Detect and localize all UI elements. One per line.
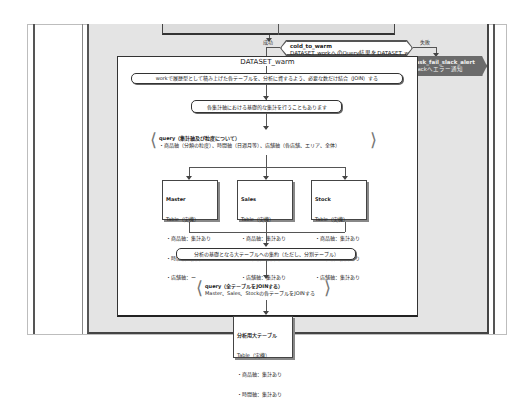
table-row: ・店舗軸：ー [166,274,214,281]
connector [266,222,267,232]
table-kind: Table（実機） [166,216,214,223]
query-body: Master、Sales、Stockの各テーブルをJOINする [205,290,315,297]
slack-alert-task: task_fail_slack_alert slackへエラー通知 [407,56,487,76]
query-bracket-left-icon: ⟨ [150,131,157,149]
lane-divider [493,24,495,334]
join-bar [189,232,345,233]
branch-decision: cold_to_warm DATASET_workへのQuery結果をDATAS… [280,40,413,56]
query-join-note: query（全テーブルをJOINする） Master、Sales、Stockの各… [205,283,315,296]
connector [266,155,267,167]
top-box-divider [278,24,279,35]
step-join-tables: workで履歴型として積み上げた各テーブルを、分析に資するよう、必要な数だけ結合… [131,73,403,84]
table-master: Master Table（実機） ・商品軸：集計あり ・時間軸：集計なし ・店舗… [162,180,218,220]
arrowhead-icon [263,311,269,315]
step-basic-aggregation: 各集計軸における基礎的な集計を行うこともあります [191,100,342,113]
failure-label: 失敗 [420,38,430,45]
lane-divider [82,24,83,334]
table-kind: Table（実機） [237,352,289,359]
table-row: ・店舗軸：集計あり [315,274,363,281]
table-name: Stock [315,196,363,203]
connector [413,47,436,48]
connector [345,222,346,232]
step-consolidate: 分析の基礎となる大テーブルへの集約（ただし、分割テーブル） [176,248,356,260]
table-row: ・商品軸：集計あり [237,371,289,378]
query-bracket-left-icon: ⟨ [196,279,203,297]
query-title: query（集計軸及び粒度について） [159,135,240,141]
alert-description: slackへエラー通知 [413,66,481,73]
arrowhead-icon [263,275,269,279]
arrowhead-icon [263,126,269,130]
table-kind: Table（実機） [241,216,289,223]
table-row: ・商品軸：集計あり [241,235,289,242]
query-body: ・商品軸（分類の粒度）、時間軸（日週月等）、店舗軸（各店舗、エリア、全体） [159,142,340,149]
lane-divider [33,24,35,334]
table-sales: Sales Table（実機） ・商品軸：集計あり ・時間軸：集計あり ・店舗軸… [237,180,293,220]
connector [266,47,280,48]
table-row: ・商品軸：集計あり [315,235,363,242]
table-row: ・時間軸：集計あり [237,391,289,398]
table-name: 分析用大テーブル [237,332,289,339]
table-row: ・商品軸：集計あり [166,235,214,242]
query-bracket-right-icon: ⟩ [324,279,331,297]
table-name: Master [166,196,214,203]
query-bracket-right-icon: ⟩ [370,131,377,149]
connector [189,222,190,232]
query-title: query（全テーブルをJOINする） [205,283,283,289]
fork-bar [189,167,345,168]
table-kind: Table（実機） [315,216,363,223]
group-title: DATASET_warm [117,58,418,66]
table-analysis-master: 分析用大テーブル Table（実機） ・商品軸：集計あり ・時間軸：集計あり ・… [233,316,293,358]
success-label: 成功 [263,38,273,45]
table-name: Sales [241,196,289,203]
table-stock: Stock Table（実機） ・商品軸：集計あり ・時間軸：集計あり ・店舗軸… [311,180,367,220]
alert-title: task_fail_slack_alert [413,59,481,66]
query-aggregation-note: query（集計軸及び粒度について） ・商品軸（分類の粒度）、時間軸（日週月等）… [159,135,340,148]
arrowhead-icon [263,243,269,247]
